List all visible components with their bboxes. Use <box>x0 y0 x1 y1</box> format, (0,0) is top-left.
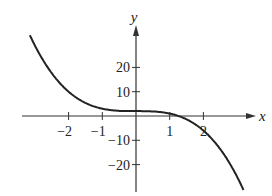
x-tick-label: 1 <box>166 124 173 139</box>
x-tick-label: 2 <box>200 124 207 139</box>
data-series <box>30 35 244 190</box>
y-axis-arrow-icon <box>133 25 139 36</box>
y-tick-label: 10 <box>116 85 130 100</box>
tick-labels: −2−1122010−10−20xy <box>57 9 266 173</box>
y-tick-label: 20 <box>116 60 130 75</box>
x-axis-arrow-icon <box>246 113 256 119</box>
curve-line <box>30 35 244 190</box>
x-axis-label: x <box>258 108 266 124</box>
y-tick-label: −20 <box>108 158 130 173</box>
x-tick-label: −1 <box>91 124 106 139</box>
x-tick-label: −2 <box>57 124 72 139</box>
chart: −2−1122010−10−20xy <box>0 0 272 196</box>
axes <box>22 25 256 192</box>
y-tick-label: −10 <box>108 133 130 148</box>
y-axis-label: y <box>129 9 138 25</box>
